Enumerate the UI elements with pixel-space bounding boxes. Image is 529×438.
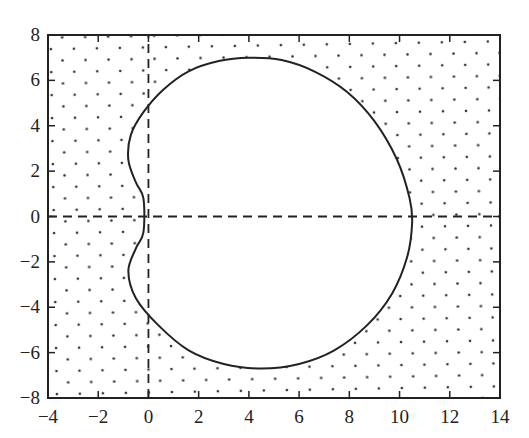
x-tick-label: 14 (491, 406, 511, 427)
y-tick-label: 2 (31, 160, 41, 181)
x-tick-label: −2 (88, 406, 108, 427)
y-tick-label: 0 (31, 206, 41, 227)
chart: −4−202468101214 86420−2−4−6−8 (0, 0, 529, 438)
x-tick-label: 12 (440, 406, 459, 427)
y-tick-label: −8 (20, 387, 40, 408)
y-tick-label: −6 (20, 342, 40, 363)
x-tick-label: 4 (244, 406, 254, 427)
x-tick-label: 6 (294, 406, 304, 427)
x-tick-label: 8 (345, 406, 355, 427)
x-tick-label: 0 (144, 406, 154, 427)
y-tick-label: 4 (31, 115, 41, 136)
x-tick-label: −4 (38, 406, 59, 427)
plot-area (48, 35, 500, 398)
y-tick-label: −4 (20, 296, 41, 317)
y-tick-label: −2 (20, 251, 40, 272)
x-tick-label: 2 (194, 406, 204, 427)
y-tick-label: 8 (31, 24, 41, 45)
x-tick-label: 10 (390, 406, 409, 427)
y-tick-label: 6 (31, 69, 41, 90)
